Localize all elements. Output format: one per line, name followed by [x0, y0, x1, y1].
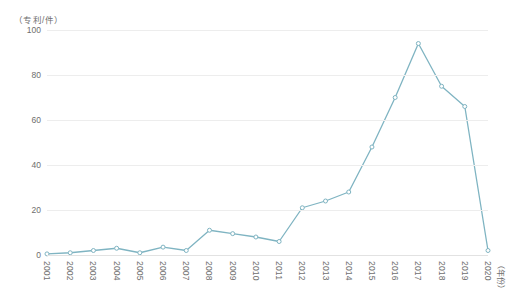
- y-axis-unit-label: （专利/件）: [14, 13, 63, 25]
- x-axis-tick-label: 2015: [367, 261, 377, 281]
- data-point-marker: [486, 249, 490, 253]
- data-point-marker: [347, 190, 351, 194]
- data-point-marker: [324, 199, 328, 203]
- x-axis-tick-label: 2001: [42, 261, 52, 281]
- gridline: [47, 30, 488, 31]
- data-point-marker: [115, 246, 119, 250]
- x-axis-tick-label: 2007: [181, 261, 191, 281]
- x-axis-tick-label: 2017: [413, 261, 423, 281]
- x-axis-tick-label: 2012: [297, 261, 307, 281]
- plot-area: 0204060801002001200220032004200520062007…: [47, 30, 488, 255]
- x-axis-tick-label: 2018: [437, 261, 447, 281]
- y-axis-tick-label: 80: [32, 70, 41, 80]
- x-axis-tick-label: 2004: [112, 261, 122, 281]
- y-axis-tick-label: 40: [32, 160, 41, 170]
- y-axis-tick-label: 20: [32, 205, 41, 215]
- x-axis-tick-label: 2016: [390, 261, 400, 281]
- gridline: [47, 120, 488, 121]
- y-axis-tick-label: 100: [27, 25, 41, 35]
- x-axis-tick-label: 2002: [65, 261, 75, 281]
- x-axis-tick-label: 2014: [344, 261, 354, 281]
- data-point-marker: [416, 42, 420, 46]
- data-point-marker: [370, 145, 374, 149]
- axis-zero-line: [47, 255, 488, 256]
- y-axis-tick-label: 0: [36, 250, 41, 260]
- gridline: [47, 165, 488, 166]
- gridline: [47, 75, 488, 76]
- data-point-marker: [393, 96, 397, 100]
- data-point-marker: [231, 232, 235, 236]
- data-point-marker: [184, 249, 188, 253]
- x-axis-tick-label: 2019: [460, 261, 470, 281]
- x-axis-tick-label: 2008: [204, 261, 214, 281]
- series-patent-applications: [47, 30, 488, 255]
- data-point-marker: [277, 240, 281, 244]
- data-point-marker: [463, 105, 467, 109]
- x-axis-tick-label: 2006: [158, 261, 168, 281]
- x-axis-tick-label: 2010: [251, 261, 261, 281]
- x-axis-tick-label: 2020: [483, 261, 493, 281]
- data-point-marker: [254, 235, 258, 239]
- x-axis-tick-label: 2013: [321, 261, 331, 281]
- data-point-marker: [161, 245, 165, 249]
- y-axis-tick-label: 60: [32, 115, 41, 125]
- data-point-marker: [91, 249, 95, 253]
- x-axis-tick-label: 2011: [274, 261, 284, 280]
- x-axis-tick-label: 2003: [88, 261, 98, 281]
- x-axis-tick-label: 2005: [135, 261, 145, 281]
- gridline: [47, 210, 488, 211]
- x-axis-unit-label: （年份）: [496, 261, 507, 293]
- x-axis-tick-label: 2009: [228, 261, 238, 281]
- data-point-marker: [440, 84, 444, 88]
- data-point-marker: [207, 228, 211, 232]
